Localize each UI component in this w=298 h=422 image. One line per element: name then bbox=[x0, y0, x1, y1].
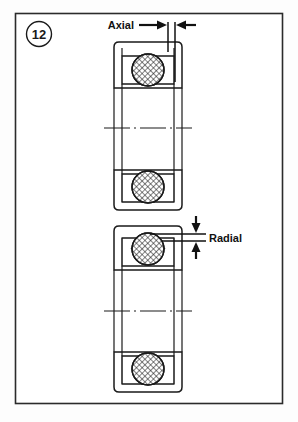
badge-number-label: 12 bbox=[32, 27, 46, 42]
figure-container: 12 bbox=[0, 0, 298, 422]
lower-ball-bottom bbox=[132, 353, 164, 385]
radial-label: Radial bbox=[209, 232, 242, 244]
upper-ball-bottom bbox=[132, 171, 164, 203]
lower-ball-top bbox=[132, 233, 164, 265]
upper-ball-top bbox=[132, 54, 164, 86]
axial-label: Axial bbox=[108, 19, 134, 31]
bearing-clearance-diagram: 12 bbox=[0, 0, 298, 422]
figure-number-badge: 12 bbox=[27, 22, 52, 47]
